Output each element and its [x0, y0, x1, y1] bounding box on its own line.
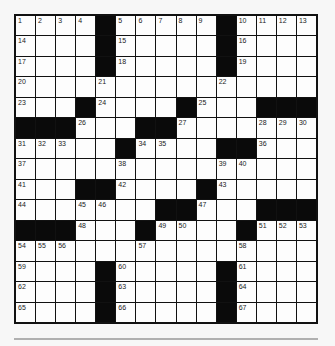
grid-cell[interactable]: 4 — [76, 16, 95, 35]
grid-cell[interactable] — [277, 262, 296, 281]
grid-cell[interactable]: 2 — [36, 16, 55, 35]
grid-cell[interactable] — [36, 77, 55, 96]
grid-cell[interactable]: 13 — [297, 16, 316, 35]
grid-cell[interactable] — [177, 303, 196, 322]
grid-cell[interactable] — [36, 98, 55, 117]
grid-cell[interactable] — [156, 180, 175, 199]
grid-cell[interactable]: 67 — [237, 303, 256, 322]
grid-cell[interactable]: 7 — [156, 16, 175, 35]
grid-cell[interactable]: 33 — [56, 139, 75, 158]
grid-cell[interactable] — [297, 159, 316, 178]
grid-cell[interactable] — [36, 180, 55, 199]
grid-cell[interactable] — [177, 36, 196, 55]
grid-cell[interactable]: 32 — [36, 139, 55, 158]
grid-cell[interactable] — [96, 118, 115, 137]
grid-cell[interactable]: 49 — [156, 221, 175, 240]
grid-cell[interactable] — [96, 139, 115, 158]
grid-cell[interactable] — [197, 221, 216, 240]
grid-cell[interactable]: 11 — [257, 16, 276, 35]
grid-cell[interactable] — [36, 200, 55, 219]
grid-cell[interactable]: 56 — [56, 241, 75, 260]
grid-cell[interactable]: 28 — [257, 118, 276, 137]
grid-cell[interactable] — [257, 262, 276, 281]
grid-cell[interactable] — [177, 57, 196, 76]
grid-cell[interactable] — [177, 77, 196, 96]
grid-cell[interactable]: 27 — [177, 118, 196, 137]
grid-cell[interactable] — [257, 303, 276, 322]
grid-cell[interactable] — [96, 159, 115, 178]
grid-cell[interactable] — [257, 77, 276, 96]
grid-cell[interactable] — [116, 221, 135, 240]
grid-cell[interactable] — [36, 262, 55, 281]
grid-cell[interactable] — [257, 57, 276, 76]
grid-cell[interactable] — [136, 159, 155, 178]
grid-cell[interactable] — [156, 282, 175, 301]
grid-cell[interactable] — [156, 303, 175, 322]
grid-cell[interactable] — [277, 57, 296, 76]
grid-cell[interactable] — [177, 241, 196, 260]
grid-cell[interactable]: 5 — [116, 16, 135, 35]
grid-cell[interactable]: 66 — [116, 303, 135, 322]
grid-cell[interactable] — [136, 303, 155, 322]
grid-cell[interactable] — [197, 57, 216, 76]
grid-cell[interactable] — [277, 36, 296, 55]
grid-cell[interactable] — [36, 36, 55, 55]
grid-cell[interactable] — [197, 303, 216, 322]
grid-cell[interactable] — [116, 200, 135, 219]
grid-cell[interactable] — [76, 77, 95, 96]
grid-cell[interactable] — [156, 159, 175, 178]
grid-cell[interactable]: 23 — [16, 98, 35, 117]
grid-cell[interactable] — [56, 282, 75, 301]
grid-cell[interactable] — [56, 200, 75, 219]
grid-cell[interactable]: 54 — [16, 241, 35, 260]
grid-cell[interactable] — [156, 98, 175, 117]
grid-cell[interactable] — [136, 180, 155, 199]
grid-cell[interactable]: 47 — [197, 200, 216, 219]
grid-cell[interactable] — [56, 262, 75, 281]
grid-cell[interactable] — [177, 262, 196, 281]
grid-cell[interactable]: 31 — [16, 139, 35, 158]
grid-cell[interactable] — [156, 77, 175, 96]
grid-cell[interactable] — [237, 200, 256, 219]
grid-cell[interactable] — [36, 282, 55, 301]
grid-cell[interactable] — [76, 282, 95, 301]
grid-cell[interactable] — [197, 139, 216, 158]
grid-cell[interactable]: 15 — [116, 36, 135, 55]
grid-cell[interactable]: 21 — [96, 77, 115, 96]
grid-cell[interactable]: 29 — [277, 118, 296, 137]
grid-cell[interactable]: 41 — [16, 180, 35, 199]
grid-cell[interactable] — [96, 221, 115, 240]
grid-cell[interactable] — [197, 36, 216, 55]
grid-cell[interactable]: 38 — [116, 159, 135, 178]
grid-cell[interactable] — [56, 57, 75, 76]
grid-cell[interactable]: 30 — [297, 118, 316, 137]
grid-cell[interactable] — [156, 241, 175, 260]
grid-cell[interactable] — [156, 262, 175, 281]
grid-cell[interactable] — [36, 303, 55, 322]
grid-cell[interactable] — [136, 200, 155, 219]
grid-cell[interactable] — [136, 282, 155, 301]
grid-cell[interactable]: 22 — [217, 77, 236, 96]
grid-cell[interactable] — [217, 118, 236, 137]
grid-cell[interactable]: 18 — [116, 57, 135, 76]
grid-cell[interactable] — [217, 221, 236, 240]
grid-cell[interactable]: 48 — [76, 221, 95, 240]
grid-cell[interactable] — [177, 139, 196, 158]
grid-cell[interactable] — [136, 57, 155, 76]
grid-cell[interactable] — [56, 303, 75, 322]
grid-cell[interactable] — [197, 118, 216, 137]
grid-cell[interactable] — [197, 282, 216, 301]
grid-cell[interactable] — [76, 139, 95, 158]
grid-cell[interactable]: 42 — [116, 180, 135, 199]
grid-cell[interactable] — [257, 159, 276, 178]
grid-cell[interactable] — [177, 159, 196, 178]
grid-cell[interactable]: 17 — [16, 57, 35, 76]
grid-cell[interactable] — [297, 139, 316, 158]
grid-cell[interactable]: 62 — [16, 282, 35, 301]
grid-cell[interactable] — [237, 180, 256, 199]
grid-cell[interactable]: 57 — [136, 241, 155, 260]
grid-cell[interactable] — [136, 36, 155, 55]
grid-cell[interactable]: 55 — [36, 241, 55, 260]
grid-cell[interactable] — [56, 36, 75, 55]
grid-cell[interactable]: 24 — [96, 98, 115, 117]
